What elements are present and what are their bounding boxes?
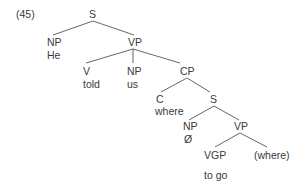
branch-S-VP	[93, 21, 134, 35]
branch-S-NP	[53, 21, 93, 35]
node-S: S	[89, 8, 96, 20]
node-V: V	[83, 65, 90, 77]
branch-S-NP-null	[189, 106, 214, 120]
branch-VP-trace	[240, 133, 267, 147]
word-to-go: to go	[204, 169, 227, 181]
word-where: where	[155, 105, 184, 117]
branch-CP-S	[187, 78, 210, 92]
tree-branches	[0, 0, 306, 193]
branch-CP-C	[161, 78, 187, 92]
example-number: (45)	[16, 8, 35, 20]
node-NP-subject: NP	[47, 36, 62, 48]
word-us: us	[127, 78, 138, 90]
branch-VP-CP	[133, 49, 180, 63]
node-VGP: VGP	[204, 149, 226, 161]
node-NP-null: NP	[183, 120, 198, 132]
node-C: C	[156, 93, 164, 105]
word-null: Ø	[184, 133, 192, 145]
word-he: He	[47, 49, 60, 61]
branch-VP-V	[86, 49, 133, 63]
node-NP-object: NP	[127, 65, 142, 77]
branch-VP-VGP	[215, 133, 240, 147]
node-VP-embedded: VP	[234, 120, 248, 132]
node-S-embedded: S	[210, 93, 217, 105]
node-trace-where: (where)	[254, 149, 290, 161]
node-VP: VP	[128, 36, 142, 48]
word-told: told	[83, 78, 100, 90]
branch-S-VP-embedded	[214, 106, 239, 120]
node-CP: CP	[180, 65, 195, 77]
